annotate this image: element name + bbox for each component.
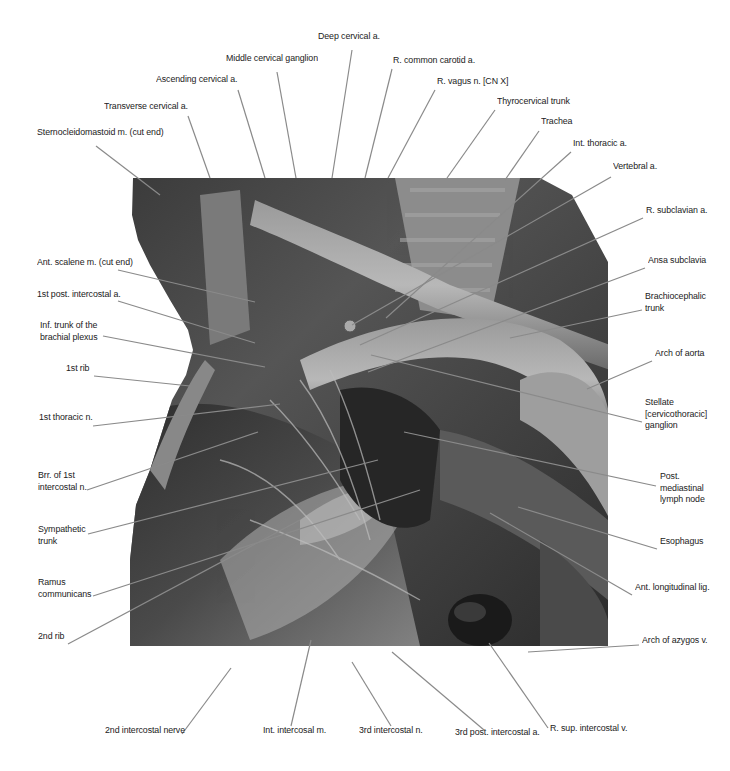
label-thyrocervical-trunk: Thyrocervical trunk <box>497 95 570 107</box>
label-deep-cervical-a: Deep cervical a. <box>318 30 380 42</box>
leader-ant-scalene-m <box>118 270 255 302</box>
leader-thyrocervical-trunk <box>447 110 495 178</box>
label-2nd-intercostal-nerve: 2nd intercostal nerve <box>105 724 185 736</box>
label-3rd-intercostal-n: 3rd intercostal n. <box>359 724 423 736</box>
leader-ant-longitudinal-lig <box>490 513 632 595</box>
leader-r-common-carotid-a <box>365 69 392 178</box>
label-3rd-post-intercostal-a: 3rd post. intercostal a. <box>455 726 540 738</box>
label-brr-1st-intercostal-n: Brr. of 1st intercostal n. <box>38 469 87 492</box>
leader-3rd-intercostal-n <box>352 662 391 726</box>
leader-brr-1st-intercostal-n <box>87 432 258 490</box>
leader-int-thoracic-a <box>386 152 571 318</box>
label-ansa-subclavia: Ansa subclavia <box>648 254 706 266</box>
leader-2nd-rib <box>68 520 300 644</box>
label-inf-trunk-brachial-plexus: Inf. trunk of the brachial plexus <box>40 319 98 342</box>
leader-r-subclavian-a <box>360 218 643 345</box>
leader-r-vagus-n <box>388 90 435 178</box>
label-arch-of-azygos-v: Arch of azygos v. <box>642 634 707 646</box>
leader-deep-cervical-a <box>332 50 352 178</box>
leader-esophagus <box>518 507 657 549</box>
label-2nd-rib: 2nd rib <box>38 630 64 642</box>
label-1st-post-intercostal-a: 1st post. intercostal a. <box>37 288 121 300</box>
leader-int-intercosal-m <box>291 640 311 726</box>
leader-r-sup-intercostal-v <box>489 643 548 728</box>
label-vertebral-a: Vertebral a. <box>613 160 657 172</box>
label-sternocleidomastoid-m: Sternocleidomastoid m. (cut end) <box>37 126 164 138</box>
label-1st-rib: 1st rib <box>66 362 89 374</box>
leader-arch-of-aorta <box>587 361 652 389</box>
label-ant-scalene-m: Ant. scalene m. (cut end) <box>37 256 133 268</box>
leader-middle-cervical-ganglion <box>277 72 296 178</box>
label-int-intercosal-m: Int. intercosal m. <box>263 724 326 736</box>
leader-1st-post-intercostal-a <box>118 301 255 343</box>
label-trachea: Trachea <box>541 115 572 127</box>
label-int-thoracic-a: Int. thoracic a. <box>573 137 627 149</box>
label-esophagus: Esophagus <box>660 535 703 547</box>
label-r-sup-intercostal-v: R. sup. intercostal v. <box>550 722 627 734</box>
label-ramus-communicans: Ramus communicans <box>38 576 91 599</box>
label-transverse-cervical-a: Transverse cervical a. <box>104 100 188 112</box>
label-stellate-ganglion: Stellate [cervicothoracic] ganglion <box>645 396 707 431</box>
leader-lines <box>0 0 730 771</box>
leader-ascending-cervical-a <box>238 90 265 178</box>
label-sympathetic-trunk: Sympathetic trunk <box>38 523 86 546</box>
anatomy-figure: Deep cervical a.Middle cervical ganglion… <box>0 0 730 771</box>
leader-2nd-intercostal-nerve <box>182 668 231 734</box>
leader-vertebral-a <box>352 177 611 325</box>
label-post-mediastinal-lymph-node: Post. mediastinal lymph node <box>660 470 705 505</box>
label-r-subclavian-a: R. subclavian a. <box>646 204 707 216</box>
label-r-vagus-n: R. vagus n. [CN X] <box>437 75 508 87</box>
label-brachiocephalic-trunk: Brachiocephalic trunk <box>645 290 706 313</box>
leader-inf-trunk-brachial-plexus <box>103 336 265 367</box>
leader-stellate-ganglion <box>371 355 642 422</box>
label-ant-longitudinal-lig: Ant. longitudinal lig. <box>635 581 710 593</box>
leader-ansa-subclavia <box>368 268 645 372</box>
leader-3rd-post-intercostal-a <box>392 652 484 730</box>
label-arch-of-aorta: Arch of aorta <box>655 347 704 359</box>
leader-brachiocephalic-trunk <box>510 310 642 338</box>
leader-sternocleidomastoid-m <box>96 146 160 195</box>
leader-trachea <box>505 131 539 180</box>
leader-sympathetic-trunk <box>88 460 378 534</box>
label-middle-cervical-ganglion: Middle cervical ganglion <box>226 52 318 64</box>
label-ascending-cervical-a: Ascending cervical a. <box>156 73 237 85</box>
leader-transverse-cervical-a <box>188 116 210 178</box>
leader-1st-rib <box>94 376 190 386</box>
leader-arch-of-azygos-v <box>528 645 639 652</box>
leader-post-mediastinal-lymph-node <box>404 432 656 486</box>
label-1st-thoracic-n: 1st thoracic n. <box>39 411 93 423</box>
leader-1st-thoracic-n <box>93 404 280 426</box>
label-r-common-carotid-a: R. common carotid a. <box>393 54 475 66</box>
